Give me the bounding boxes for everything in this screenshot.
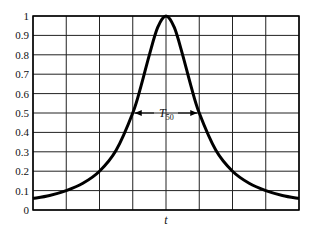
y-tick-label: 1 — [24, 10, 30, 22]
y-tick-label: 0.3 — [15, 146, 29, 158]
arrowhead-right — [190, 110, 197, 116]
y-tick-label: 0.4 — [15, 126, 29, 138]
y-tick-label: 0 — [24, 204, 30, 216]
x-axis-label: t — [164, 213, 168, 227]
y-tick-label: 0.2 — [15, 165, 29, 177]
y-tick-label: 0.9 — [15, 29, 29, 41]
y-tick-label: 0.7 — [15, 68, 29, 80]
chart: 00.10.20.30.40.50.60.70.80.91 T50 t — [0, 0, 312, 234]
y-tick-label: 0.6 — [15, 88, 29, 100]
y-tick-label: 0.5 — [15, 107, 29, 119]
y-tick-label: 0.1 — [15, 185, 29, 197]
arrowhead-left — [135, 110, 142, 116]
annotation-subscript: 50 — [166, 113, 174, 122]
y-tick-label: 0.8 — [15, 49, 29, 61]
y-axis-ticks: 00.10.20.30.40.50.60.70.80.91 — [15, 10, 29, 216]
